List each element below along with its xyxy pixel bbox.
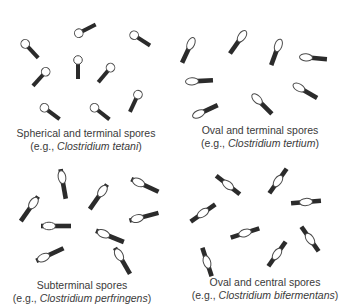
caption-title: Oval and terminal spores bbox=[201, 124, 319, 137]
caption-example: (e.g., Clostridium tetani) bbox=[17, 140, 156, 153]
spore-diagram bbox=[0, 0, 344, 307]
bacterium-cell bbox=[95, 62, 117, 85]
panel-subterminal bbox=[18, 169, 160, 276]
bacterium-cell bbox=[299, 53, 327, 63]
bacterium-cell bbox=[292, 81, 319, 101]
bacterium-cell bbox=[298, 225, 321, 254]
bacterium-cell bbox=[38, 102, 62, 123]
bacterium-cell bbox=[41, 222, 71, 230]
bacterium-cell bbox=[266, 167, 289, 196]
bacterium-cell bbox=[250, 92, 275, 117]
bacterium-cell bbox=[227, 29, 249, 56]
spore bbox=[185, 77, 198, 85]
bacterium-cell bbox=[126, 89, 144, 114]
caption-example: (e.g., Clostridium perfringens) bbox=[13, 292, 151, 305]
bacterium-cell bbox=[291, 197, 322, 207]
spore bbox=[299, 53, 313, 61]
spore bbox=[273, 38, 284, 53]
bacterium-cell bbox=[35, 245, 65, 265]
species-name: Clostridium tertium bbox=[228, 137, 316, 149]
bacterium-cell bbox=[130, 176, 160, 196]
panel-spherical-terminal bbox=[19, 21, 152, 123]
panel-oval-terminal bbox=[179, 29, 327, 120]
caption-oval-terminal: Oval and terminal spores (e.g., Clostrid… bbox=[201, 124, 319, 149]
spore bbox=[238, 228, 253, 239]
bacterium-cell bbox=[191, 102, 219, 120]
bacterium-cell bbox=[95, 227, 126, 245]
spore bbox=[74, 56, 83, 65]
spore bbox=[130, 213, 145, 224]
spore bbox=[202, 255, 213, 270]
panel-oval-central bbox=[189, 167, 322, 278]
bacterium-cell bbox=[179, 36, 197, 64]
bacterium-cell bbox=[230, 225, 261, 241]
caption-subterminal: Subterminal spores (e.g., Clostridium pe… bbox=[13, 279, 151, 304]
bacterium-cell bbox=[88, 102, 112, 123]
spore bbox=[57, 170, 67, 184]
spore bbox=[43, 222, 56, 230]
caption-title: Subterminal spores bbox=[13, 279, 151, 292]
bacterium-cell bbox=[57, 169, 70, 200]
bacterium-cell bbox=[189, 201, 218, 224]
caption-example: (e.g., Clostridium bifermentans) bbox=[192, 289, 339, 302]
bacterium-cell bbox=[73, 21, 98, 39]
caption-title: Oval and central spores bbox=[192, 276, 339, 289]
bacterium-cell bbox=[30, 66, 52, 89]
caption-title: Spherical and terminal spores bbox=[17, 127, 156, 140]
caption-example: (e.g., Clostridium tertium) bbox=[201, 137, 319, 150]
caption-oval-central: Oval and central spores (e.g., Clostridi… bbox=[192, 276, 339, 301]
bacterium-cell bbox=[199, 247, 215, 278]
bacterium-cell bbox=[128, 209, 159, 224]
spore bbox=[299, 198, 313, 206]
bacterium-cell bbox=[265, 240, 288, 269]
bacterium-cell bbox=[87, 182, 110, 211]
species-name: Clostridium bifermentans bbox=[219, 289, 335, 301]
bacterium-cell bbox=[19, 38, 41, 61]
species-name: Clostridium perfringens bbox=[40, 292, 148, 304]
bacterium-cell bbox=[185, 77, 213, 86]
bacterium-cell bbox=[214, 173, 242, 197]
bacterium-cell bbox=[128, 29, 152, 49]
bacterium-cell bbox=[74, 56, 83, 79]
bacterium-cell bbox=[112, 246, 134, 276]
bacterium-cell bbox=[18, 194, 41, 223]
species-name: Clostridium tetani bbox=[57, 140, 138, 152]
caption-spherical-terminal: Spherical and terminal spores (e.g., Clo… bbox=[17, 127, 156, 152]
bacterium-cell bbox=[268, 38, 284, 66]
